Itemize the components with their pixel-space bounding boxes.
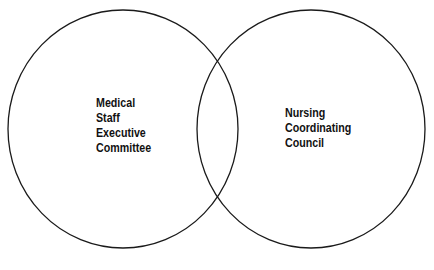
label-line: Council (285, 135, 351, 150)
label-nursing-coordinating-council: Nursing Coordinating Council (285, 105, 351, 150)
venn-diagram (0, 0, 434, 270)
label-line: Staff (96, 110, 151, 125)
label-line: Committee (96, 140, 151, 155)
label-line: Coordinating (285, 120, 351, 135)
label-line: Medical (96, 95, 151, 110)
label-medical-staff-executive-committee: Medical Staff Executive Committee (96, 95, 151, 155)
label-line: Nursing (285, 105, 351, 120)
label-line: Executive (96, 125, 151, 140)
